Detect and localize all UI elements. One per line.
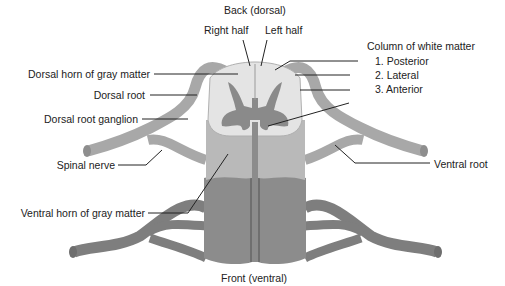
label-column-white-matter: Column of white matter [367, 40, 475, 52]
label-dorsal-root-ganglion: Dorsal root ganglion [44, 113, 138, 125]
label-lateral: 2. Lateral [375, 69, 419, 81]
label-anterior: 3. Anterior [375, 83, 423, 95]
label-right-half: Right half [204, 24, 248, 36]
label-back-dorsal: Back (dorsal) [224, 4, 286, 16]
label-posterior: 1. Posterior [375, 55, 429, 67]
label-dorsal-root: Dorsal root [94, 89, 145, 101]
label-spinal-nerve: Spinal nerve [57, 159, 115, 171]
label-left-half: Left half [265, 24, 302, 36]
label-dorsal-horn: Dorsal horn of gray matter [28, 68, 150, 80]
label-ventral-root: Ventral root [434, 158, 488, 170]
label-front-ventral: Front (ventral) [221, 272, 287, 284]
label-ventral-horn: Ventral horn of gray matter [21, 207, 145, 219]
